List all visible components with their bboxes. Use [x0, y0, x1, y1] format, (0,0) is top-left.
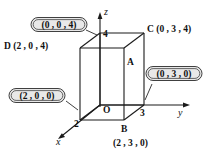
vertex-label-d: D (2 , 0 , 4): [4, 41, 48, 52]
axis-z-arrowhead: [98, 12, 103, 19]
tick-label-z: 4: [103, 29, 108, 39]
vertex-label-b: B: [121, 124, 128, 134]
callout-z-text: (0 , 0 , 4): [42, 20, 77, 31]
axis-y-arrowhead: [183, 103, 190, 108]
axis-x-label: x: [55, 136, 61, 147]
callout-y-text: (0 , 3 , 0): [157, 69, 192, 80]
axis-z: z: [98, 6, 108, 107]
callout-z-intercept[interactable]: (0 , 0 , 4): [31, 18, 97, 36]
vertex-label-c: C (0 , 3 , 4): [147, 24, 191, 35]
vertex-coords-b: (2 , 3 , 0): [113, 138, 148, 149]
tick-x: 2: [74, 119, 79, 129]
tick-y: 3: [140, 108, 145, 118]
coordinate-box-figure: z y x 4 3 2: [0, 0, 209, 149]
tick-z: 4: [103, 29, 108, 39]
callout-x-intercept[interactable]: (2 , 0 , 0): [9, 89, 78, 111]
vertex-label-a: A: [127, 57, 134, 67]
tick-label-x: 2: [74, 119, 79, 129]
callout-y-intercept[interactable]: (0 , 3 , 0): [145, 67, 202, 101]
callout-x-text: (2 , 0 , 0): [20, 91, 55, 102]
tick-label-y: 3: [140, 108, 145, 118]
axis-y-label: y: [177, 107, 183, 118]
vertex-label-origin: O: [103, 105, 110, 115]
axis-z-label: z: [103, 6, 108, 17]
diagram-canvas: z y x 4 3 2: [0, 0, 209, 149]
box-edges: [80, 33, 144, 120]
